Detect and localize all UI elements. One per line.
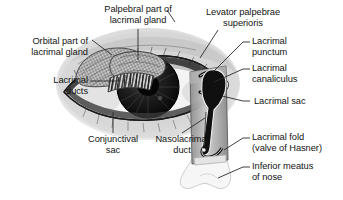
label-inferior-meatus: Inferior meatus of nose	[252, 161, 342, 182]
label-lacrimal-canaliculus: Lacrimal canaliculus	[252, 63, 342, 84]
label-palpebral-part: Palpebral part of lacrimal gland	[78, 4, 198, 25]
label-lacrimal-fold: Lacrimal fold (valve of Hasner)	[252, 132, 343, 153]
label-lacrimal-ducts: Lacrimal ducts	[10, 75, 88, 96]
label-orbital-part: Orbital part of lacrimal gland	[0, 36, 88, 57]
label-nasolacrimal-duct: Nasolacrimal duct	[134, 134, 230, 155]
lacrimal-apparatus-diagram: Palpebral part of lacrimal gland Levator…	[0, 0, 343, 200]
label-lacrimal-punctum: Lacrimal punctum	[252, 36, 342, 57]
label-lacrimal-sac: Lacrimal sac	[254, 96, 342, 107]
label-levator-palpebrae: Levator palpebrae superioris	[182, 7, 304, 28]
